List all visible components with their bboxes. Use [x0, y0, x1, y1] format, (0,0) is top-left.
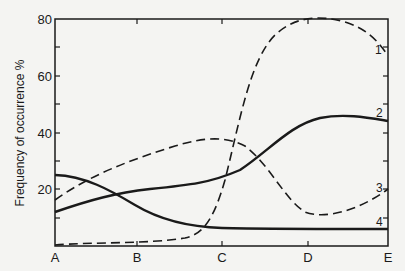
y-tick-80: 80 — [38, 12, 52, 27]
curve-label-3: 3 — [376, 181, 383, 195]
y-tick-40: 40 — [38, 126, 52, 141]
x-tick-c: C — [217, 250, 226, 265]
curve-4 — [55, 175, 388, 229]
x-tick-d: D — [303, 250, 312, 265]
line-chart: 20 40 60 80 A B C D E Frequency of occur… — [0, 0, 405, 271]
x-tick-a: A — [51, 250, 60, 265]
x-tick-b: B — [133, 250, 142, 265]
curve-label-2: 2 — [376, 106, 383, 120]
y-tick-60: 60 — [38, 69, 52, 84]
curve-2 — [55, 116, 388, 212]
curve-label-1: 1 — [375, 43, 382, 57]
y-ticks — [55, 47, 388, 218]
curve-1 — [55, 18, 388, 245]
y-axis-title: Frequency of occurrence % — [13, 59, 27, 206]
x-ticks — [137, 19, 308, 246]
curve-label-4: 4 — [376, 215, 383, 229]
x-tick-e: E — [384, 250, 393, 265]
y-tick-20: 20 — [38, 182, 52, 197]
